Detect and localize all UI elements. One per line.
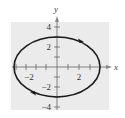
x-axis-label: x xyxy=(113,62,118,72)
y-axis-arrow-icon xyxy=(55,16,59,22)
y-axis-label: y xyxy=(53,4,58,14)
y-tick-label-2: 2 xyxy=(47,42,52,52)
y-tick-label-neg2: −2 xyxy=(41,82,51,92)
ellipse-plot: x y −2 2 4 2 −2 −4 xyxy=(0,0,125,118)
y-tick-label-neg4: −4 xyxy=(41,102,51,112)
x-tick-label-neg2: −2 xyxy=(24,72,34,82)
x-tick-label-2: 2 xyxy=(77,72,82,82)
y-tick-label-4: 4 xyxy=(47,22,52,32)
